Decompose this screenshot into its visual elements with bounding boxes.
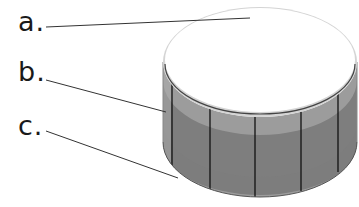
label-c: c. xyxy=(18,112,43,139)
leader-line-b xyxy=(46,80,166,112)
leader-line-c xyxy=(46,131,178,178)
label-b: b. xyxy=(18,58,46,85)
cylinder-diagram xyxy=(0,0,359,207)
label-a: a. xyxy=(18,8,45,35)
top-face xyxy=(165,8,355,112)
